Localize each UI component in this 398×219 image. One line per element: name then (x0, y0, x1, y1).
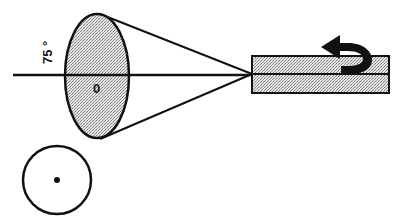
center-label: 0 (93, 81, 100, 96)
end-view-circle (23, 146, 91, 214)
end-view-center-dot (54, 177, 60, 183)
cone (65, 14, 252, 139)
diagram-canvas: 75 ° 0 (0, 0, 398, 219)
angle-label: 75 ° (40, 41, 55, 64)
diagram-svg: 75 ° 0 (0, 0, 398, 219)
